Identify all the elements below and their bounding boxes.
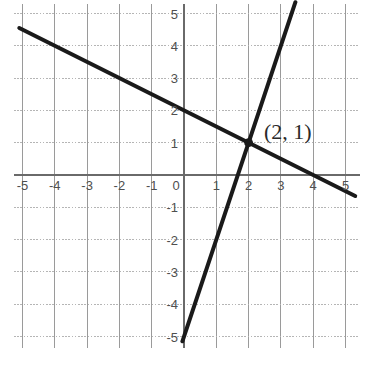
y-tick-label-2: 2 [150,104,178,117]
increasing-line [182,2,295,341]
x-tick-label-2: 2 [245,179,252,192]
x-tick-label-neg5: -5 [17,179,29,192]
x-tick-label-neg3: -3 [81,179,93,192]
y-tick-label-neg5: -5 [150,330,178,343]
y-tick-label-neg2: -2 [150,233,178,246]
x-tick-label-neg2: -2 [114,179,126,192]
y-tick-label-3: 3 [150,72,178,85]
y-tick-label-4: 4 [150,39,178,52]
coordinate-graph-screenshot: -5 -4 -3 -2 -1 0 1 2 3 4 5 5 4 3 2 1 -1 … [0,0,367,365]
intersection-point-dot [244,138,253,147]
y-tick-label-5: 5 [150,7,178,20]
x-tick-label-4: 4 [310,179,317,192]
x-tick-label-5: 5 [342,179,349,192]
x-tick-label-neg1: -1 [146,179,158,192]
y-tick-label-neg4: -4 [150,298,178,311]
y-tick-label-neg3: -3 [150,265,178,278]
intersection-point-label: (2, 1) [264,121,312,143]
decreasing-line [19,28,355,196]
x-tick-label-3: 3 [277,179,284,192]
x-tick-label-neg4: -4 [49,179,61,192]
x-tick-label-1: 1 [213,179,220,192]
y-tick-label-1: 1 [150,136,178,149]
y-tick-label-neg1: -1 [150,201,178,214]
x-tick-label-0: 0 [172,179,179,192]
